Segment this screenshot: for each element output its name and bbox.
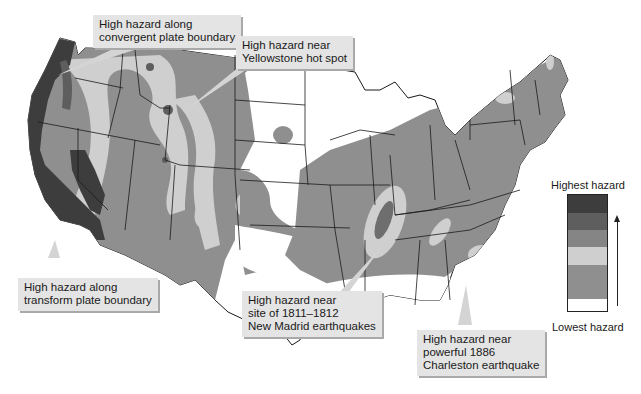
legend-bottom-label: Lowest hazard: [552, 321, 624, 333]
legend-level-3: [568, 247, 607, 265]
callout-charleston: High hazard near powerful 1886 Charlesto…: [417, 330, 545, 376]
up-arrow-icon: [617, 221, 618, 306]
callout-convergent-boundary: High hazard along convergent plate bound…: [93, 15, 241, 48]
callout-line: powerful 1886: [423, 346, 539, 359]
legend-level-6: [568, 195, 607, 213]
callout-line: Charleston earthquake: [423, 359, 539, 372]
callout-transform-boundary: High hazard along transform plate bounda…: [18, 278, 158, 311]
legend-color-scale: [567, 194, 608, 312]
callout-line: New Madrid earthquakes: [248, 320, 376, 333]
callout-line: convergent plate boundary: [99, 31, 235, 44]
callout-line: Yellowstone hot spot: [242, 52, 347, 65]
callout-line: High hazard near: [423, 333, 539, 346]
callout-line: transform plate boundary: [24, 294, 152, 307]
callout-line: High hazard along: [24, 281, 152, 294]
legend-level-4: [568, 230, 607, 247]
legend-level-1: [568, 299, 607, 311]
callout-line: High hazard near: [242, 39, 347, 52]
callout-yellowstone: High hazard near Yellowstone hot spot: [236, 36, 353, 69]
callout-line: High hazard along: [99, 18, 235, 31]
callout-new-madrid: High hazard near site of 1811–1812 New M…: [242, 291, 382, 337]
callout-line: site of 1811–1812: [248, 307, 376, 320]
legend-top-label: Highest hazard: [551, 179, 625, 191]
legend-level-5: [568, 213, 607, 230]
callout-line: High hazard near: [248, 294, 376, 307]
legend-level-2: [568, 265, 607, 299]
